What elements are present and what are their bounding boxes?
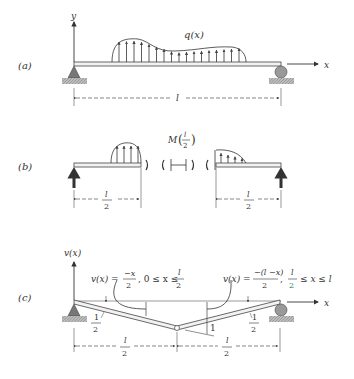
v-axis-label: v(x) — [64, 248, 82, 258]
roller-support-icon — [275, 66, 287, 78]
panel-b-label: (b) — [18, 161, 32, 172]
y-axis-label: y — [70, 11, 77, 21]
right-equation-leader — [207, 280, 231, 309]
right-equation-num: −(l −x) — [254, 268, 283, 277]
left-equation-num: −x — [124, 269, 136, 278]
right-load-curve — [216, 150, 246, 163]
panel-a-label: (a) — [18, 60, 32, 71]
right-span-den: 2 — [246, 202, 251, 211]
load-label: q(x) — [184, 29, 204, 40]
left-span-num: l — [105, 190, 108, 199]
left-equation-den: 2 — [126, 281, 131, 290]
right-equation-lhs: v(x) = — [223, 274, 251, 284]
left-cond-num: l — [178, 268, 181, 277]
moment-num: l — [184, 131, 186, 139]
right-deflected-beam — [177, 300, 280, 330]
left-equation-lhs: v(x) = — [91, 274, 119, 284]
panel-a: (a) y q(x) x l — [18, 11, 329, 106]
moment-den: 2 — [183, 142, 187, 150]
x-axis-label: x — [324, 60, 329, 70]
hinge-icon — [175, 326, 180, 331]
moment-bracket-icon — [146, 160, 148, 170]
roller-support-icon — [275, 304, 287, 316]
left-cond-den: 2 — [176, 281, 181, 290]
svg-text:): ) — [191, 133, 196, 147]
left-load-curve — [111, 143, 141, 163]
svg-text:,: , — [280, 274, 283, 284]
right-slope-den: 2 — [251, 325, 256, 334]
beam — [74, 62, 281, 66]
panel-c: (c) v(x) x 1 v(x) = −x 2 , 0 ≤ x ≤ l 2 — [18, 248, 332, 358]
right-cond-den: 2 — [289, 281, 294, 290]
right-slope-num: 1 — [252, 313, 257, 322]
beam-diagram: (a) y q(x) x l (b) — [0, 0, 354, 379]
left-equation-condition: , 0 ≤ x ≤ — [138, 274, 178, 284]
pin-support-icon — [68, 66, 80, 78]
pin-support-icon — [68, 304, 80, 316]
load-arrows — [119, 41, 239, 62]
panel-b: (b) M ( l 2 ) l 2 — [18, 131, 285, 211]
left-slope-den: 2 — [93, 325, 98, 334]
right-span-num: l — [247, 190, 250, 199]
ground-hatch-icon — [269, 78, 294, 84]
right-cond-num: l — [291, 268, 294, 277]
span-label: l — [176, 93, 179, 103]
unit-deflection-label: 1 — [210, 323, 216, 333]
right-equation-condition: ≤ x ≤ l — [300, 274, 332, 284]
right-half-beam — [216, 163, 281, 167]
left-span-den: 2 — [122, 349, 127, 358]
left-half-beam — [74, 163, 141, 167]
svg-text:(: ( — [178, 133, 183, 147]
panel-c-label: (c) — [18, 292, 32, 303]
left-slope-num: 1 — [94, 313, 99, 322]
right-span-den: 2 — [224, 349, 229, 358]
right-equation-den: 2 — [262, 281, 267, 290]
moment-M: M — [167, 135, 178, 145]
left-reaction-arrow-icon — [70, 170, 78, 188]
left-span-num: l — [124, 336, 127, 345]
ground-hatch-icon — [62, 78, 87, 84]
left-span-den: 2 — [104, 202, 109, 211]
x-axis-label: x — [324, 298, 329, 308]
right-span-num: l — [226, 336, 229, 345]
left-deflected-beam — [74, 300, 177, 330]
right-reaction-arrow-icon — [277, 170, 285, 188]
